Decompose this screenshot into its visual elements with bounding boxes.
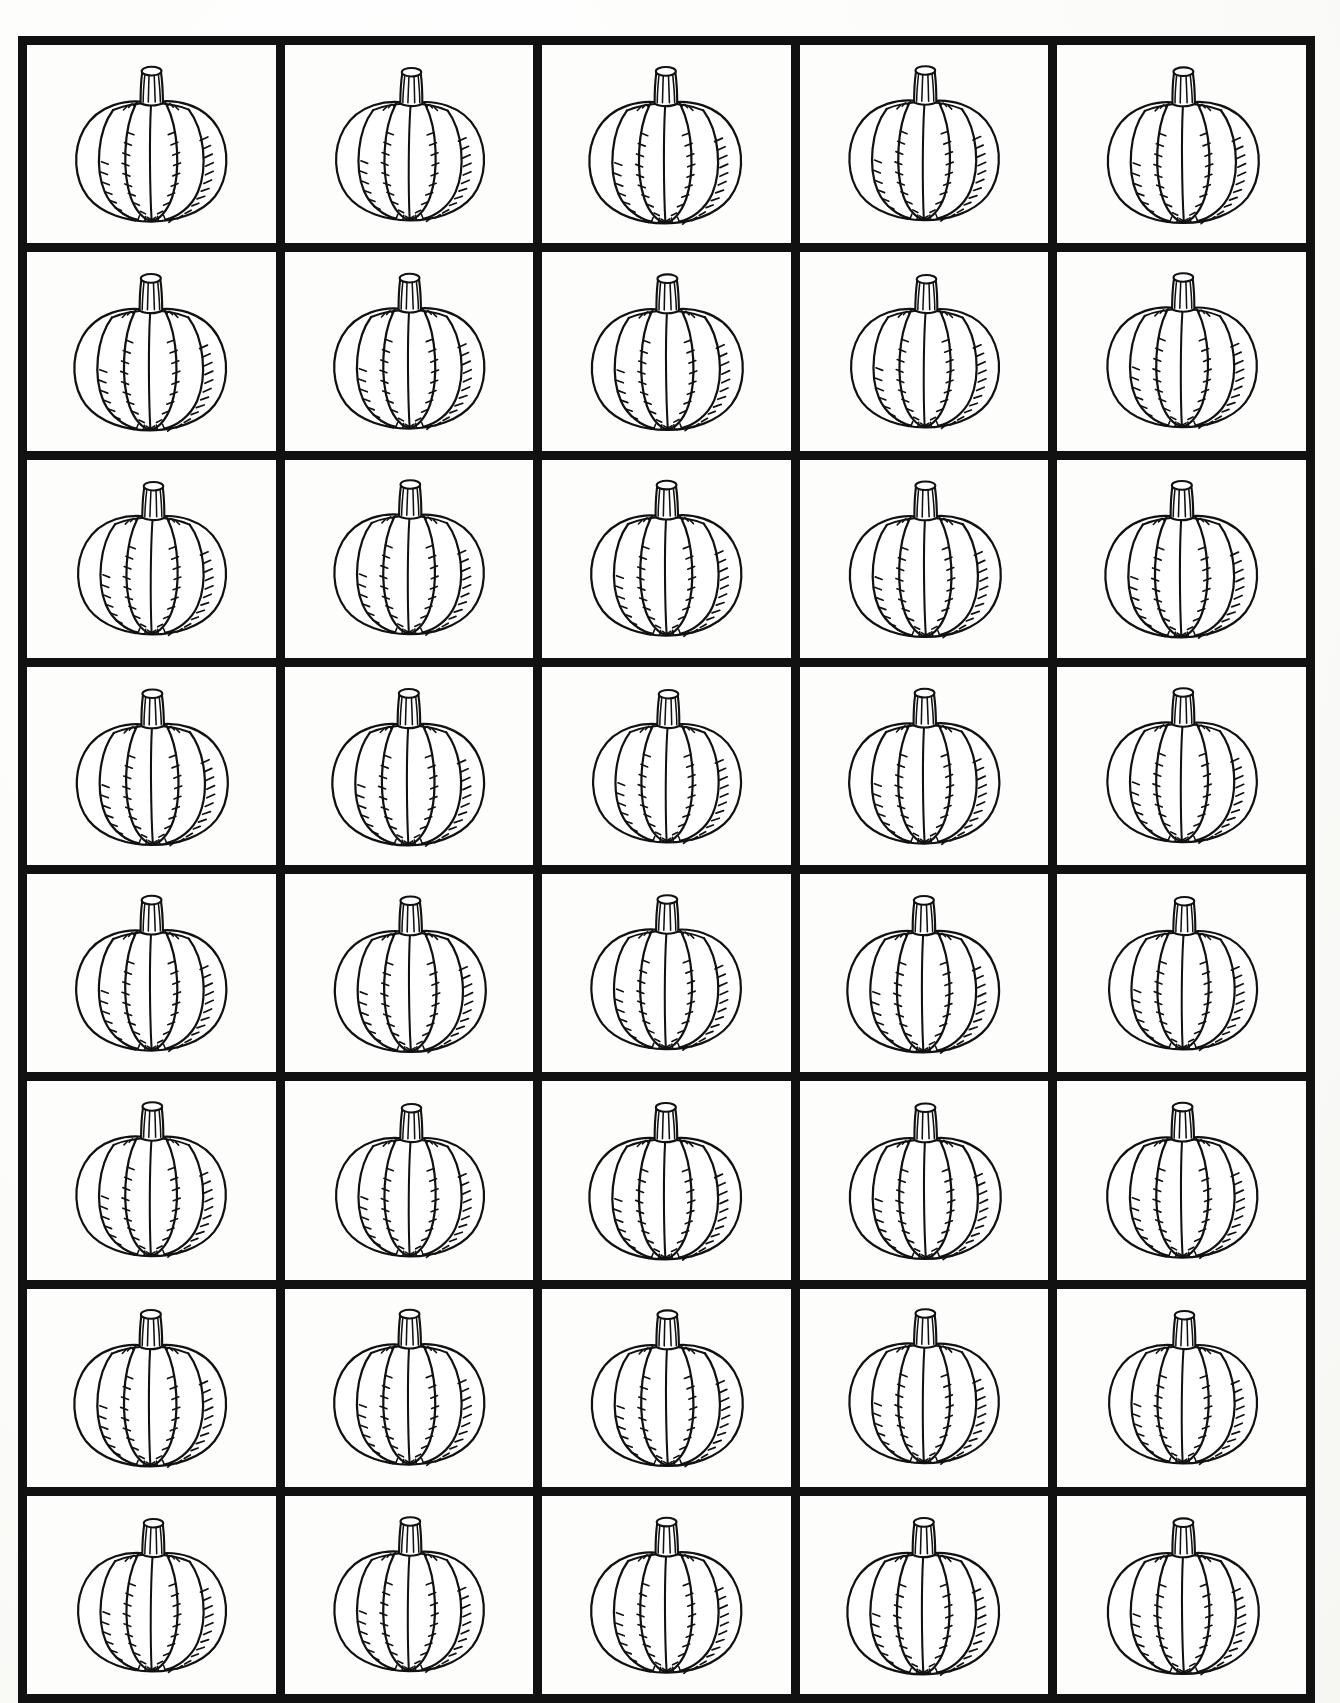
pumpkin-artwork	[800, 667, 1049, 865]
pumpkin-outline-cell[interactable]	[285, 1289, 543, 1496]
pumpkin-outline-cell[interactable]	[800, 1081, 1058, 1288]
pumpkin-icon	[565, 675, 769, 856]
pumpkin-outline-cell[interactable]	[800, 1289, 1058, 1496]
pumpkin-outline-cell[interactable]	[542, 1496, 800, 1703]
pumpkin-outline-cell[interactable]	[27, 1289, 285, 1496]
pumpkin-icon	[563, 1296, 772, 1481]
pumpkin-outline-cell[interactable]	[800, 1496, 1058, 1703]
pumpkin-outline-cell[interactable]	[285, 1081, 543, 1288]
pumpkin-outline-cell[interactable]	[800, 874, 1058, 1081]
pumpkin-artwork	[542, 1081, 791, 1279]
pumpkin-outline-cell[interactable]	[1057, 1289, 1315, 1496]
pumpkin-outline-cell[interactable]	[285, 45, 543, 252]
pumpkin-icon	[561, 53, 770, 238]
pumpkin-artwork	[542, 667, 791, 865]
pumpkin-outline-cell[interactable]	[1057, 874, 1315, 1081]
pumpkin-outline-cell[interactable]	[800, 460, 1058, 667]
pumpkin-icon	[1076, 467, 1285, 652]
pumpkin-icon	[48, 52, 255, 236]
pumpkin-outline-cell[interactable]	[27, 1496, 285, 1703]
pumpkin-artwork	[542, 874, 791, 1072]
pumpkin-outline-cell[interactable]	[542, 874, 800, 1081]
pumpkin-icon	[46, 260, 255, 445]
pumpkin-artwork	[800, 874, 1049, 1072]
pumpkin-outline-cell[interactable]	[1057, 460, 1315, 667]
pumpkin-icon	[305, 882, 514, 1067]
pumpkin-artwork	[285, 1289, 534, 1487]
pumpkin-icon	[50, 468, 254, 649]
pumpkin-outline-cell[interactable]	[27, 1081, 285, 1288]
pumpkin-outline-cell[interactable]	[285, 252, 543, 459]
pumpkin-artwork	[542, 1496, 791, 1694]
pumpkin-icon	[306, 466, 512, 648]
pumpkin-outline-cell[interactable]	[285, 460, 543, 667]
pumpkin-outline-cell[interactable]	[542, 667, 800, 874]
pumpkin-outline-cell[interactable]	[1057, 252, 1315, 459]
pumpkin-outline-cell[interactable]	[1057, 1496, 1315, 1703]
pumpkin-icon	[48, 674, 257, 859]
pumpkin-artwork	[1057, 460, 1306, 658]
pumpkin-outline-cell[interactable]	[542, 1081, 800, 1288]
pumpkin-icon	[303, 675, 512, 860]
pumpkin-outline-cell[interactable]	[285, 1496, 543, 1703]
pumpkin-outline-cell[interactable]	[542, 45, 800, 252]
pumpkin-artwork	[27, 252, 276, 450]
pumpkin-artwork	[27, 874, 276, 1072]
pumpkin-outline-cell[interactable]	[285, 874, 543, 1081]
pumpkin-artwork	[542, 252, 791, 450]
pumpkin-icon	[563, 467, 770, 651]
pumpkin-artwork	[27, 1081, 276, 1279]
pumpkin-outline-cell[interactable]	[1057, 667, 1315, 874]
pumpkin-artwork	[285, 667, 534, 865]
pumpkin-icon	[563, 260, 772, 445]
pumpkin-icon	[305, 260, 512, 444]
pumpkin-outline-cell[interactable]	[27, 874, 285, 1081]
pumpkin-artwork	[542, 460, 791, 658]
pumpkin-outline-cell[interactable]	[1057, 45, 1315, 252]
pumpkin-artwork	[800, 252, 1049, 450]
pumpkin-artwork	[800, 1289, 1049, 1487]
pumpkin-artwork	[1057, 874, 1306, 1072]
pumpkin-icon	[308, 1090, 512, 1271]
pumpkin-outline-cell[interactable]	[1057, 1081, 1315, 1288]
pumpkin-icon	[821, 1089, 1030, 1274]
pumpkin-icon	[46, 1296, 255, 1481]
worksheet-page	[0, 0, 1340, 1703]
pumpkin-artwork	[800, 1081, 1049, 1279]
pumpkin-artwork	[285, 460, 534, 658]
pumpkin-outline-cell[interactable]	[542, 252, 800, 459]
pumpkin-outline-cell[interactable]	[800, 252, 1058, 459]
pumpkin-icon	[821, 467, 1030, 652]
pumpkin-outline-cell[interactable]	[542, 460, 800, 667]
pumpkin-icon	[819, 882, 1028, 1067]
pumpkin-outline-cell[interactable]	[27, 667, 285, 874]
pumpkin-artwork	[285, 252, 534, 450]
pumpkin-icon	[48, 1088, 254, 1270]
pumpkin-artwork	[1057, 1289, 1306, 1487]
pumpkin-artwork	[285, 45, 534, 243]
pumpkin-icon	[1078, 1503, 1287, 1688]
pumpkin-outline-cell[interactable]	[27, 252, 285, 459]
pumpkin-icon	[561, 1089, 770, 1274]
pumpkin-artwork	[1057, 667, 1306, 865]
pumpkin-artwork	[27, 460, 276, 658]
pumpkin-icon	[563, 881, 769, 1063]
pumpkin-outline-cell[interactable]	[800, 667, 1058, 874]
pumpkin-artwork	[1057, 252, 1306, 450]
pumpkin-outline-cell[interactable]	[27, 45, 285, 252]
pumpkin-icon	[1079, 674, 1285, 856]
pumpkin-icon	[305, 1296, 512, 1480]
pumpkin-grid	[18, 36, 1315, 1703]
pumpkin-icon	[308, 54, 512, 235]
pumpkin-artwork	[1057, 45, 1306, 243]
pumpkin-artwork	[27, 45, 276, 243]
pumpkin-icon	[563, 1503, 770, 1687]
pumpkin-outline-cell[interactable]	[800, 45, 1058, 252]
pumpkin-icon	[1078, 1089, 1285, 1273]
pumpkin-outline-cell[interactable]	[27, 460, 285, 667]
pumpkin-artwork	[800, 460, 1049, 658]
pumpkin-outline-cell[interactable]	[542, 1289, 800, 1496]
pumpkin-icon	[820, 674, 1027, 858]
pumpkin-outline-cell[interactable]	[285, 667, 543, 874]
pumpkin-artwork	[542, 45, 791, 243]
